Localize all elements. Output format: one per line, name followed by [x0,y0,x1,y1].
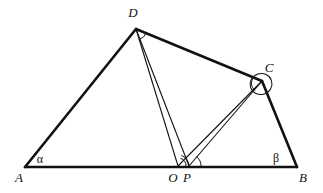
angle-label-alpha: α [37,152,44,166]
edge-DC [136,29,262,81]
segment-CP [189,81,262,166]
segment-DP [136,29,189,166]
angle-label-beta: β [273,151,279,165]
quadrilateral-outline [25,29,297,167]
vertex-label-C: C [265,60,274,75]
geometry-figure: A B C D O P α β [0,0,323,193]
edge-CB [262,81,297,167]
edge-AD [25,29,136,167]
vertex-label-B: B [299,170,307,185]
vertex-label-D: D [127,5,138,20]
angle-arc-marks [139,33,274,166]
angle-arc-at-P [197,157,201,166]
segment-CO [178,81,262,166]
cevian-lines [136,29,262,166]
geometry-diagram-svg: A B C D O P α β [0,0,323,193]
segment-DO [136,29,178,166]
vertex-label-P: P [182,170,191,185]
vertex-label-A: A [14,170,23,185]
vertex-label-O: O [168,170,178,185]
